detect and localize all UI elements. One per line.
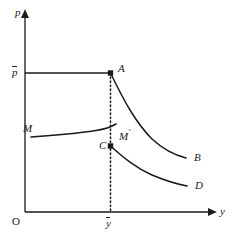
economics-diagram: p y O p y A C M M' B D — [0, 0, 234, 239]
price-axis-label: p — [15, 7, 21, 18]
curve-label-m-prime: M' — [119, 127, 130, 142]
curve-label-b: B — [194, 152, 201, 163]
y-bar-glyph: y — [106, 218, 111, 229]
plot-canvas — [0, 0, 234, 239]
money-curve-mm — [31, 124, 116, 137]
origin-label: O — [12, 216, 20, 227]
point-marker-c — [108, 143, 113, 148]
curve-label-d: D — [195, 180, 203, 191]
demand-curve-ab — [111, 73, 187, 158]
prime-mark: ' — [128, 127, 130, 137]
overbar — [12, 66, 17, 67]
quantity-tick-label: y — [106, 218, 111, 229]
point-marker-a — [108, 70, 113, 75]
point-label-a: A — [118, 63, 125, 74]
curve-label-m-prime-base: M — [119, 130, 128, 142]
y-bar-text: y — [106, 217, 111, 229]
point-label-c: C — [99, 140, 106, 151]
output-axis-label: y — [220, 206, 225, 217]
price-ceiling-tick-label: p — [12, 67, 18, 78]
curve-label-m: M — [23, 123, 32, 134]
p-bar-glyph: p — [12, 67, 18, 78]
p-bar-text: p — [12, 66, 18, 78]
demand-curve-cd — [111, 146, 188, 186]
overbar — [106, 217, 110, 218]
